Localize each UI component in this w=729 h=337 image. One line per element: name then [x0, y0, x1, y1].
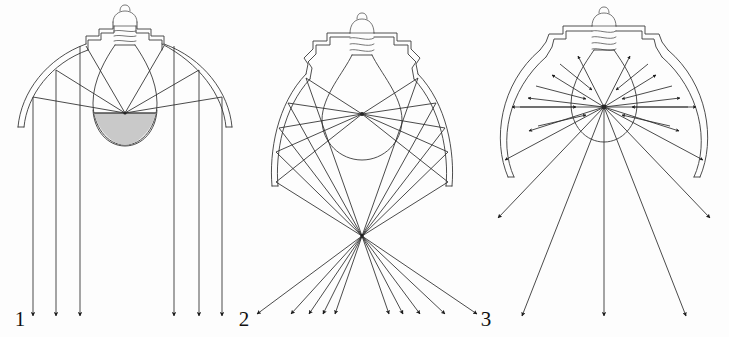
label-2: 2 — [239, 307, 250, 331]
screw-base-socket — [86, 5, 164, 50]
figure-root: 1 — [0, 0, 729, 337]
label-1: 1 — [15, 307, 26, 331]
silvered-bulb-crown — [88, 113, 164, 153]
panel-parabolic: 1 — [15, 5, 232, 331]
panel-elliptical: 2 — [239, 13, 477, 331]
optical-diagram-canvas: 1 — [0, 0, 729, 337]
escaping-flood-rays — [498, 107, 710, 316]
label-3: 3 — [481, 307, 492, 331]
reflector-shell — [271, 74, 452, 186]
incandescent-bulb-envelope — [322, 55, 402, 160]
panel-diffuse: 3 — [481, 7, 710, 331]
screw-base-socket — [540, 7, 668, 57]
screw-base-socket — [304, 13, 420, 79]
converging-rays — [276, 78, 448, 236]
reflected-parallel-rays — [33, 46, 222, 316]
diverging-rays — [257, 236, 477, 314]
incident-rays — [276, 78, 448, 182]
